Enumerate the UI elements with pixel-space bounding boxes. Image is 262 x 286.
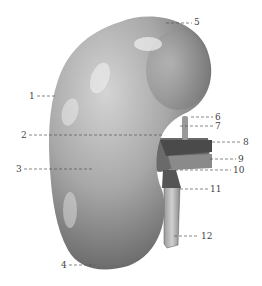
label-10: 10: [233, 166, 244, 175]
label-1: 1: [29, 92, 35, 101]
label-11: 11: [210, 185, 221, 194]
label-8: 8: [243, 138, 249, 147]
label-2: 2: [21, 131, 27, 140]
label-4: 4: [61, 261, 67, 270]
ureter: [164, 186, 180, 248]
label-7: 7: [215, 122, 221, 131]
kidney-illustration: [0, 0, 262, 286]
label-3: 3: [16, 165, 22, 174]
label-9: 9: [238, 155, 244, 164]
label-5: 5: [194, 18, 200, 27]
label-12: 12: [201, 232, 212, 241]
